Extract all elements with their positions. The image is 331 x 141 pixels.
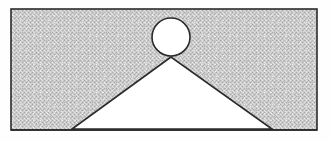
bottom-frame-line	[11, 129, 317, 131]
geometry-figure	[0, 0, 331, 141]
circle-cutout	[152, 18, 190, 56]
circle-cutout-group	[152, 18, 190, 56]
figure-container	[0, 0, 331, 141]
